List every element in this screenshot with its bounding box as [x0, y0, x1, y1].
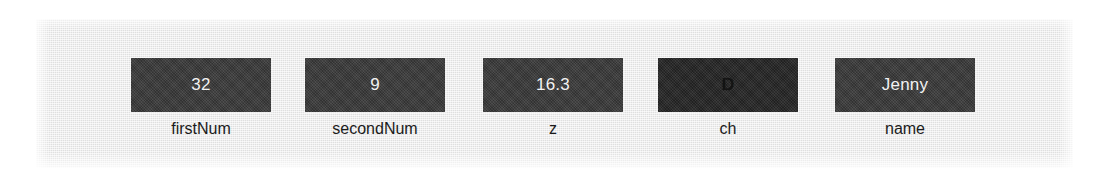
variable-cell-ch: D ch	[658, 58, 798, 138]
variable-label-secondnum: secondNum	[305, 120, 445, 138]
variable-label-z: z	[483, 120, 623, 138]
variable-cell-secondnum: 9 secondNum	[305, 58, 445, 138]
variable-box-name: Jenny	[835, 58, 975, 112]
variable-value-firstnum: 32	[191, 76, 210, 93]
variable-box-secondnum: 9	[305, 58, 445, 112]
variable-value-ch: D	[722, 76, 734, 93]
variable-cell-name: Jenny name	[835, 58, 975, 138]
variable-value-z: 16.3	[536, 76, 570, 93]
variable-label-ch: ch	[658, 120, 798, 138]
variable-value-name: Jenny	[882, 76, 928, 93]
variable-box-firstnum: 32	[131, 58, 271, 112]
variable-cell-z: 16.3 z	[483, 58, 623, 138]
variable-box-ch: D	[658, 58, 798, 112]
variable-cell-firstnum: 32 firstNum	[131, 58, 271, 138]
variable-label-firstnum: firstNum	[131, 120, 271, 138]
variable-label-name: name	[835, 120, 975, 138]
variable-value-secondnum: 9	[370, 76, 380, 93]
variable-box-z: 16.3	[483, 58, 623, 112]
variable-memory-diagram: 32 firstNum 9 secondNum 16.3 z D ch Jenn…	[0, 0, 1109, 187]
